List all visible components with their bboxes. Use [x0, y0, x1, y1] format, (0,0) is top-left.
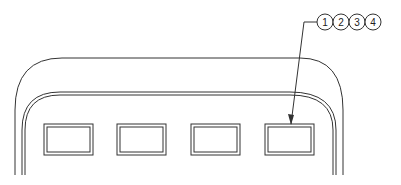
- outer-housing-outline: [15, 58, 343, 175]
- svg-text:4: 4: [370, 17, 376, 28]
- svg-text:1: 1: [322, 17, 328, 28]
- svg-text:3: 3: [354, 17, 360, 28]
- button-2: [117, 124, 166, 155]
- technical-drawing: 1 2 3 4: [0, 0, 401, 185]
- button-4: [265, 124, 314, 155]
- svg-text:2: 2: [338, 17, 344, 28]
- button-3: [191, 124, 240, 155]
- balloon-1: 1: [317, 14, 333, 30]
- balloon-3: 3: [349, 14, 365, 30]
- button-1: [44, 124, 93, 155]
- inner-bezel-outline-outer: [22, 92, 336, 175]
- inner-bezel-outline-inner: [25, 95, 333, 175]
- balloon-2: 2: [333, 14, 349, 30]
- leader-line: [288, 22, 317, 125]
- balloon-4: 4: [365, 14, 381, 30]
